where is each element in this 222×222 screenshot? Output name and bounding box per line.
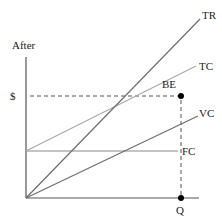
- quantity-point: [178, 195, 184, 201]
- after-title: After: [12, 39, 36, 51]
- break-even-label: BE: [162, 78, 176, 90]
- diagram-canvas: After $ BE Q TR TC VC FC: [0, 0, 222, 222]
- tc-label: TC: [199, 60, 213, 72]
- break-even-diagram: After $ BE Q TR TC VC FC: [0, 0, 222, 222]
- quantity-label: Q: [176, 204, 184, 216]
- variable-cost-line: [26, 116, 198, 198]
- tr-label: TR: [202, 9, 217, 21]
- vc-label: VC: [199, 107, 214, 119]
- total-revenue-line: [26, 19, 200, 198]
- break-even-point: [178, 93, 184, 99]
- dollar-label: $: [10, 90, 16, 102]
- fc-label: FC: [182, 145, 195, 157]
